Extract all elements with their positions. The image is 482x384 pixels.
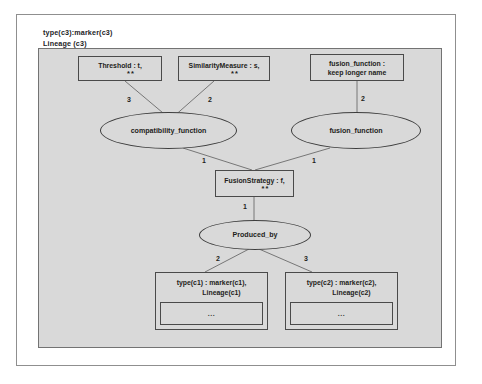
header-annotation: type(c3):marker(c3) Lineage (c3) [43,27,112,49]
edge-label-produced-c1: 2 [216,255,220,262]
node-compatibility-function-label: compatibility_function [131,127,207,135]
node-fusion-function-label: fusion_function [329,127,382,135]
node-entity-c2-title: type(c2) : marker(c2), Lineage(c2) [290,278,393,297]
node-produced-by-label: Produced_by [233,231,278,239]
edge-label-produced-c2: 3 [304,255,308,262]
diagram-canvas: type(c3):marker(c3) Lineage (c3) Thresho… [0,0,482,384]
edge-label-fusionattr-fusionfn: 2 [361,95,365,102]
node-entity-c1-title: type(c1) : marker(c1), Lineage(c1) [160,278,263,297]
node-fusion-function-attribute-line-1: fusion_function : [311,59,403,68]
node-fusion-strategy-label: FusionStrategy : f, [216,176,293,185]
node-threshold-label: Threshold : t, [79,61,161,70]
edge-label-strategy-produced: 1 [243,203,247,210]
header-line-2: Lineage (c3) [43,38,112,49]
node-fusion-strategy[interactable]: FusionStrategy : f, ** [215,170,294,197]
node-entity-c2-compartment-label: ... [338,310,345,317]
node-entity-c2-line-2: Lineage(c2) [290,288,393,298]
node-similarity-measure-label: SimilarityMeasure : s, [179,61,269,70]
node-fusion-function-attribute-line-2: keep longer name [311,68,403,77]
node-entity-c2-compartment[interactable]: ... [290,302,393,325]
node-compatibility-function[interactable]: compatibility_function [100,112,237,149]
node-entity-c1[interactable]: type(c1) : marker(c1), Lineage(c1) ... [155,272,268,330]
edge-label-similarity-compatibility: 2 [208,96,212,103]
edge-label-fusionfn-strategy: 1 [312,157,316,164]
node-entity-c1-line-1: type(c1) : marker(c1), [177,279,247,286]
node-fusion-strategy-sublabel: ** [216,185,293,192]
node-entity-c2-line-1: type(c2) : marker(c2), [307,279,377,286]
node-entity-c1-compartment-label: ... [208,310,215,317]
node-threshold-sublabel: ** [79,70,161,77]
node-entity-c1-compartment[interactable]: ... [160,302,263,325]
node-threshold[interactable]: Threshold : t, ** [78,56,162,81]
node-fusion-function-attribute[interactable]: fusion_function : keep longer name [310,54,404,81]
node-entity-c1-line-2: Lineage(c1) [160,288,263,298]
edge-label-threshold-compatibility: 3 [127,96,131,103]
node-produced-by[interactable]: Produced_by [199,220,311,250]
node-fusion-function[interactable]: fusion_function [291,112,421,149]
node-similarity-measure[interactable]: SimilarityMeasure : s, ** [178,56,270,81]
node-similarity-measure-sublabel: ** [179,70,269,77]
edge-label-compatibility-strategy: 1 [202,157,206,164]
node-entity-c2[interactable]: type(c2) : marker(c2), Lineage(c2) ... [285,272,398,330]
header-line-1: type(c3):marker(c3) [43,27,112,38]
